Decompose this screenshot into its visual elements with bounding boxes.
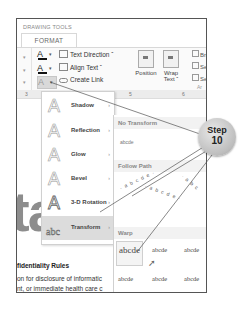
- text-direction-button[interactable]: Text Direction ˇ: [59, 50, 113, 58]
- wrap-text-button[interactable]: Wrap Text ˇ: [160, 50, 182, 82]
- bring-forward-button[interactable]: Brin: [192, 50, 207, 58]
- transform-submenu: No Transform abcde Follow Path · a b c d…: [113, 115, 207, 293]
- text-effects-menu: A Shadow › A Reflection › A Glow › A Bev…: [41, 91, 115, 245]
- text-fill-button[interactable]: A ▾: [37, 49, 55, 60]
- dropdown-arrow-icon[interactable]: ▾: [23, 79, 26, 85]
- selection-pane-icon: [192, 74, 199, 81]
- glow-icon: A: [48, 145, 60, 165]
- text-effects-button[interactable]: A ▾: [37, 76, 57, 89]
- position-icon: [138, 50, 154, 68]
- ruler-tick: 5: [129, 91, 132, 97]
- chevron-down-icon: ▾: [49, 49, 52, 60]
- dropdown-arrow-icon[interactable]: ▾: [23, 67, 26, 73]
- 3d-rotation-icon: A: [48, 193, 60, 213]
- align-text-button[interactable]: Align Text ˇ: [59, 63, 102, 71]
- chevron-right-icon: ›: [108, 151, 110, 157]
- warp-option-square[interactable]: abcde: [116, 241, 143, 266]
- chevron-right-icon: ›: [108, 224, 110, 230]
- position-button[interactable]: Position: [133, 50, 159, 76]
- chevron-right-icon: ›: [108, 127, 110, 133]
- tab-format[interactable]: FORMAT: [21, 33, 77, 48]
- chevron-down-icon: ▾: [49, 63, 52, 74]
- follow-path-arch-down[interactable]: · a b c d e ·: [144, 183, 182, 202]
- text-effects-icon: A: [38, 77, 44, 87]
- document-heading: fidentiality Rules: [17, 262, 69, 269]
- drawing-tools-label: DRAWING TOOLS: [23, 24, 72, 30]
- no-transform-header: No Transform: [114, 117, 207, 129]
- color-bar: [38, 72, 47, 74]
- send-backward-button[interactable]: Sen: [192, 62, 207, 70]
- warp-option[interactable]: abcde: [152, 246, 167, 253]
- ribbon: ▾ ▾ ▾ A ▾ A ▾ A ▾ Text Direction ˇ Align…: [17, 47, 206, 90]
- align-text-icon: [59, 63, 68, 71]
- menu-item-shadow[interactable]: A Shadow ›: [42, 94, 114, 118]
- bring-forward-icon: [192, 50, 199, 57]
- follow-path-header: Follow Path: [114, 160, 207, 172]
- mouse-pointer-icon: ➚: [148, 258, 156, 268]
- no-transform-option[interactable]: abcde: [120, 139, 134, 145]
- dropdown-arrow-icon[interactable]: ▾: [23, 54, 26, 60]
- shadow-icon: A: [48, 96, 60, 116]
- selection-pane-button[interactable]: Sele: [192, 74, 207, 82]
- send-backward-icon: [192, 62, 199, 69]
- chevron-right-icon: ›: [108, 102, 110, 108]
- create-link-button[interactable]: Create Link: [59, 76, 103, 83]
- warp-option[interactable]: abcde: [184, 275, 199, 282]
- document-line: nt, or immediate health care c: [17, 285, 103, 292]
- menu-item-reflection[interactable]: A Reflection ›: [42, 119, 114, 143]
- link-icon: [59, 78, 68, 83]
- chevron-down-icon: ▾: [50, 77, 53, 88]
- word-window: DRAWING TOOLS FORMAT ▾ ▾ ▾ A ▾ A ▾ A ▾ T…: [16, 18, 207, 293]
- callout-step-label: Step: [198, 125, 236, 135]
- bevel-icon: A: [48, 169, 60, 189]
- warp-option[interactable]: abcde: [184, 246, 199, 253]
- ruler-tick: 6: [182, 91, 185, 97]
- menu-item-transform[interactable]: abc Transform ›: [42, 216, 114, 240]
- menu-item-glow[interactable]: A Glow ›: [42, 143, 114, 167]
- step-callout: Step 10: [198, 118, 236, 156]
- text-direction-icon: [59, 50, 68, 58]
- reflection-icon: A: [48, 121, 60, 141]
- warp-header: Warp: [114, 227, 207, 239]
- text-outline-button[interactable]: A ▾: [37, 63, 55, 74]
- menu-item-bevel[interactable]: A Bevel ›: [42, 167, 114, 191]
- transform-icon: abc: [46, 222, 60, 242]
- callout-step-number: 10: [198, 135, 236, 146]
- document-line: on for disclosure of informatic: [17, 275, 102, 282]
- color-bar: [38, 58, 47, 60]
- chevron-right-icon: ›: [108, 175, 110, 181]
- warp-option[interactable]: abcde: [152, 275, 167, 282]
- wrap-text-icon: [163, 50, 179, 68]
- ruler-tick: 3: [25, 91, 28, 97]
- chevron-right-icon: ›: [108, 199, 110, 205]
- ribbon-left-group: ▾ ▾ ▾: [17, 48, 32, 90]
- warp-option[interactable]: abcde: [118, 275, 133, 282]
- follow-path-circle[interactable]: · a b c: [181, 173, 201, 191]
- menu-item-3d-rotation[interactable]: A 3-D Rotation ›: [42, 191, 114, 215]
